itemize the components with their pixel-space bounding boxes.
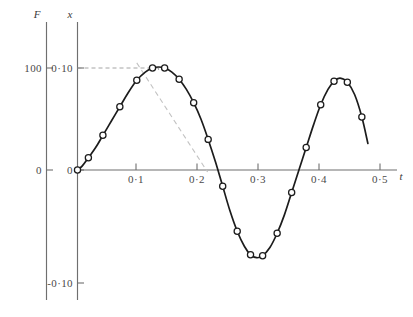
secondary-tick-label-0: 0 xyxy=(36,164,42,176)
chart-canvas: F 100 0 x 0·10 0 -0·10 0·1 0·2 0·3 0·4 xyxy=(0,0,413,317)
data-point-marker xyxy=(205,136,211,142)
data-point-marker xyxy=(247,252,253,258)
data-point-marker xyxy=(100,132,106,138)
secondary-axis-group: F 100 0 xyxy=(24,8,53,300)
data-point-marker xyxy=(191,100,197,106)
data-series-layer xyxy=(74,65,368,259)
data-curve-x xyxy=(78,67,368,258)
x-tick-label-02: 0·2 xyxy=(189,173,205,185)
data-point-marker xyxy=(234,228,240,234)
y-tick-label-010: 0·10 xyxy=(51,62,73,74)
x-axis-group: 0·1 0·2 0·3 0·4 0·5 t xyxy=(78,164,404,186)
primary-y-axis-group: x 0·10 0 -0·10 xyxy=(47,8,84,300)
x-axis-title: t xyxy=(399,170,403,182)
annotation-guides xyxy=(78,63,208,172)
figure-container: F 100 0 x 0·10 0 -0·10 0·1 0·2 0·3 0·4 xyxy=(0,0,413,317)
data-point-marker xyxy=(85,155,91,161)
data-point-marker xyxy=(162,65,168,71)
x-tick-label-04: 0·4 xyxy=(311,173,327,185)
secondary-tick-label-100: 100 xyxy=(24,62,42,74)
y-tick-label-0: 0 xyxy=(67,164,73,176)
data-point-marker xyxy=(176,76,182,82)
data-point-marker xyxy=(260,253,266,259)
data-point-marker xyxy=(318,102,324,108)
x-tick-label-03: 0·3 xyxy=(250,173,266,185)
annotation-slope-guide-2 xyxy=(137,63,208,172)
x-tick-label-01: 0·1 xyxy=(128,173,144,185)
secondary-axis-title: F xyxy=(33,8,41,20)
data-point-marker xyxy=(220,183,226,189)
data-point-marker xyxy=(74,167,80,173)
data-point-marker xyxy=(149,65,155,71)
data-point-marker xyxy=(117,104,123,110)
data-point-marker xyxy=(303,144,309,150)
data-point-marker xyxy=(344,79,350,85)
data-point-marker xyxy=(274,230,280,236)
data-point-marker xyxy=(289,189,295,195)
data-point-marker xyxy=(134,77,140,83)
y-axis-title: x xyxy=(67,8,73,20)
y-tick-label-neg010: -0·10 xyxy=(47,277,73,289)
data-point-marker xyxy=(359,114,365,120)
x-tick-label-05: 0·5 xyxy=(372,173,388,185)
data-point-marker xyxy=(331,78,337,84)
